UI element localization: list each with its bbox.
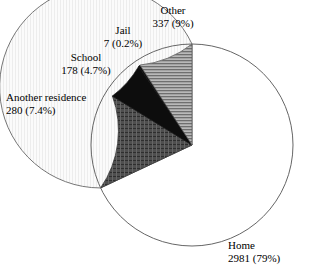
chart-page: Other 337 (9%) Jail 7 (0.2%) School 178 … bbox=[0, 0, 317, 278]
pie-label-another-residence: Another residence 280 (7.4%) bbox=[6, 91, 124, 117]
pie-label-home-name: Home bbox=[228, 239, 312, 252]
pie-label-jail-name: Jail bbox=[92, 24, 154, 37]
pie-label-another-residence-name: Another residence bbox=[6, 91, 124, 104]
pie-label-jail: Jail 7 (0.2%) bbox=[92, 24, 154, 50]
pie-label-school-value: 178 (4.7%) bbox=[48, 64, 124, 77]
pie-label-home: Home 2981 (79%) bbox=[228, 239, 312, 265]
pie-label-another-residence-value: 280 (7.4%) bbox=[6, 104, 124, 117]
pie-label-home-value: 2981 (79%) bbox=[228, 252, 312, 265]
pie-chart bbox=[0, 0, 317, 278]
pie-label-school-name: School bbox=[48, 51, 124, 64]
pie-label-school: School 178 (4.7%) bbox=[48, 51, 124, 77]
pie-label-jail-value: 7 (0.2%) bbox=[92, 37, 154, 50]
pie-label-other-name: Other bbox=[137, 4, 209, 17]
